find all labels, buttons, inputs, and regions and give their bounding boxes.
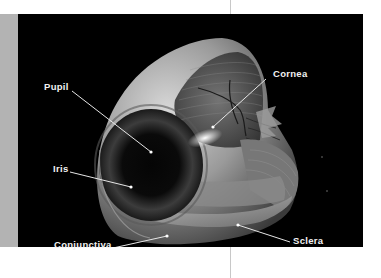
iris-disk <box>99 109 203 221</box>
side-gray-strip <box>0 14 18 247</box>
eye-illustration-panel <box>18 14 363 247</box>
page-guide-line-top <box>230 0 231 14</box>
label-cornea: Cornea <box>273 69 308 79</box>
eye-illustration <box>18 14 363 247</box>
page-guide-line-bottom <box>230 247 231 278</box>
label-conjunctiva: Conjunctiva <box>54 240 112 250</box>
label-iris: Iris <box>53 164 68 174</box>
label-pupil: Pupil <box>44 82 69 92</box>
label-sclera: Sclera <box>293 236 323 246</box>
